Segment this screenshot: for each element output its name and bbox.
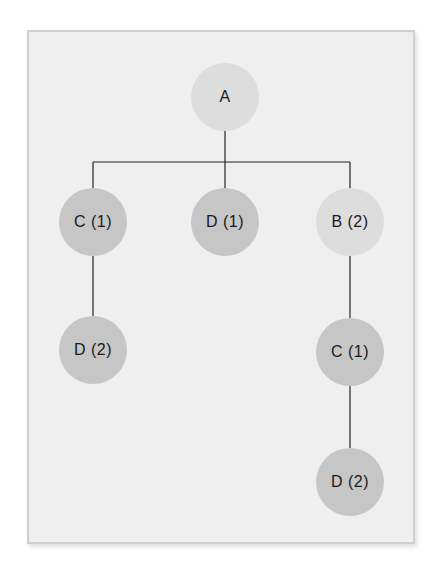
node-d-1: D (1): [191, 188, 259, 256]
node-label: A: [219, 88, 230, 106]
node-label: D (2): [74, 341, 112, 359]
node-label: C (1): [331, 343, 369, 361]
node-b-2: B (2): [316, 188, 384, 256]
node-label: D (2): [331, 473, 369, 491]
node-d-2-left: D (2): [59, 316, 127, 384]
node-a: A: [191, 63, 259, 131]
node-c-1: C (1): [59, 188, 127, 256]
node-d-2-right: D (2): [316, 448, 384, 516]
node-label: D (1): [206, 213, 244, 231]
node-label: C (1): [74, 213, 112, 231]
node-c-1-right: C (1): [316, 318, 384, 386]
node-label: B (2): [331, 213, 368, 231]
